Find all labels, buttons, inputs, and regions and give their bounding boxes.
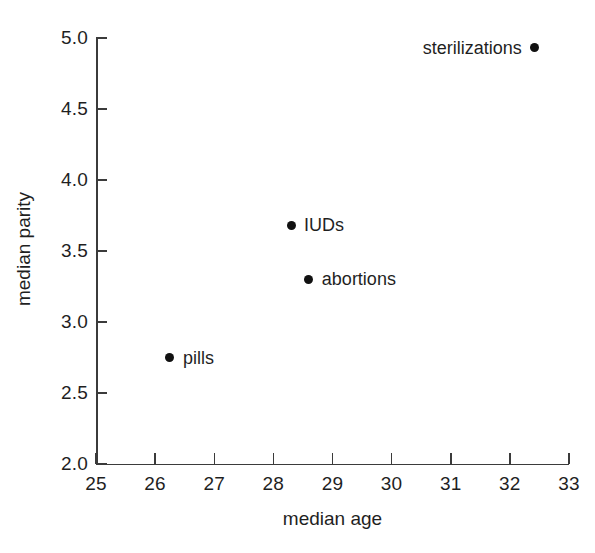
x-axis-tick <box>450 453 452 464</box>
y-axis-tick <box>96 108 107 110</box>
x-axis-tick-label: 26 <box>125 473 185 499</box>
x-axis-tick-label-text: 27 <box>184 473 244 495</box>
x-axis-tick <box>568 453 570 464</box>
x-axis-tick-label-text: 32 <box>480 473 540 495</box>
data-point-marker <box>304 275 313 284</box>
y-axis-tick-label: 4.5 <box>0 98 88 120</box>
y-axis-title: median parity <box>13 159 35 339</box>
y-axis-tick-label-text: 4.5 <box>0 98 88 120</box>
x-axis-tick-label-text: 26 <box>125 473 185 495</box>
y-axis-tick <box>96 37 107 39</box>
y-axis-tick-label-text: 5.0 <box>0 27 88 49</box>
data-point-label: pills <box>183 349 214 367</box>
x-axis-tick-label: 29 <box>303 473 363 499</box>
x-axis-tick <box>509 453 511 464</box>
data-point-label: IUDs <box>304 216 344 234</box>
data-point-marker <box>165 353 174 362</box>
data-point-label: abortions <box>322 270 396 288</box>
x-axis-tick-label: 27 <box>184 473 244 499</box>
x-axis-tick-label: 31 <box>421 473 481 499</box>
y-axis-tick <box>96 463 107 465</box>
y-axis-tick <box>96 250 107 252</box>
data-point-marker <box>287 221 296 230</box>
x-axis-tick-label: 25 <box>66 473 126 499</box>
x-axis-tick <box>95 453 97 464</box>
data-point-marker <box>530 43 539 52</box>
y-axis-tick-label: 2.5 <box>0 382 88 404</box>
x-axis-tick-label: 28 <box>243 473 303 499</box>
x-axis-tick-label: 32 <box>480 473 540 499</box>
x-axis-tick <box>332 453 334 464</box>
y-axis-tick <box>96 392 107 394</box>
y-axis-tick-label-text: 2.0 <box>0 453 88 475</box>
x-axis-tick <box>391 453 393 464</box>
scatter-plot: 2.02.53.03.54.04.55.0 252627282930313233… <box>0 0 595 553</box>
x-axis-tick-label-text: 33 <box>539 473 595 495</box>
x-axis-tick <box>273 453 275 464</box>
y-axis-tick <box>96 179 107 181</box>
x-axis-tick-label-text: 29 <box>303 473 363 495</box>
y-axis-tick-label: 5.0 <box>0 27 88 49</box>
x-axis-tick <box>154 453 156 464</box>
x-axis-tick-label-text: 31 <box>421 473 481 495</box>
x-axis-tick-label: 33 <box>539 473 595 499</box>
x-axis-tick-label: 30 <box>362 473 422 499</box>
x-axis-tick-label-text: 28 <box>243 473 303 495</box>
x-axis-tick-label-text: 25 <box>66 473 126 495</box>
y-axis-tick <box>96 321 107 323</box>
y-axis-tick-label: 2.0 <box>0 453 88 475</box>
x-axis-tick <box>214 453 216 464</box>
data-point-label: sterilizations <box>423 39 522 57</box>
y-axis-tick-label-text: 2.5 <box>0 382 88 404</box>
x-axis-tick-label-text: 30 <box>362 473 422 495</box>
x-axis-title: median age <box>96 508 569 530</box>
